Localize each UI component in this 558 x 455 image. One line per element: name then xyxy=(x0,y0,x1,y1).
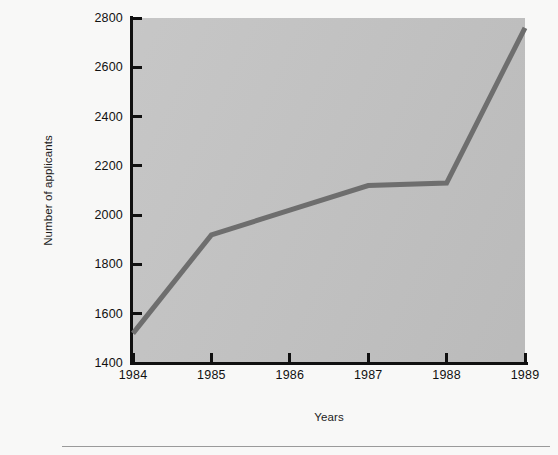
y-axis-tick-label: 1600 xyxy=(69,307,123,321)
x-axis-tick-label: 1989 xyxy=(495,368,555,382)
x-axis-tick-label: 1986 xyxy=(260,368,320,382)
y-axis-tick-label: 2600 xyxy=(69,60,123,74)
x-axis-tick-label: 1985 xyxy=(181,368,241,382)
y-axis-tick-label: 2400 xyxy=(69,110,123,124)
data-series-line xyxy=(133,18,525,363)
y-axis-tick-label: 2000 xyxy=(69,208,123,222)
x-axis-tick-label: 1988 xyxy=(417,368,477,382)
x-axis-tick-label: 1987 xyxy=(338,368,398,382)
line-chart-figure: Number of applicants 1400160018002000220… xyxy=(0,0,558,455)
applicants-line xyxy=(133,28,525,334)
x-axis-title: Years xyxy=(133,411,525,423)
x-axis-tick-label: 1984 xyxy=(103,368,163,382)
y-axis-tick-label: 2200 xyxy=(69,159,123,173)
footer-divider xyxy=(62,446,550,447)
y-axis-tick-label: 2800 xyxy=(69,11,123,25)
y-axis-title: Number of applicants xyxy=(40,18,56,363)
y-axis-tick-label: 1800 xyxy=(69,257,123,271)
